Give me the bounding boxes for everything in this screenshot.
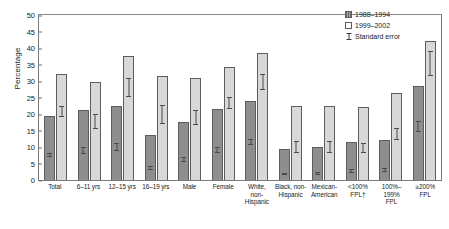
x-label-1: 6–11 yrs	[72, 183, 106, 206]
x-label-4: Male	[173, 183, 207, 206]
bar-1[interactable]	[56, 74, 67, 180]
legend-item: Standard error	[345, 31, 400, 42]
bar-1[interactable]	[257, 53, 268, 180]
error-bar	[284, 173, 285, 175]
bar-1[interactable]	[90, 82, 101, 180]
bar-group	[274, 15, 308, 180]
bar-rect	[145, 135, 156, 180]
y-tick-25: 25	[27, 93, 39, 102]
bar-rect	[78, 110, 89, 180]
bar-rect	[379, 140, 390, 180]
bar-0[interactable]	[413, 86, 424, 180]
error-bar	[296, 141, 297, 152]
bar-group	[106, 15, 140, 180]
bar-0[interactable]	[178, 122, 189, 180]
error-bar	[95, 114, 96, 129]
legend-label: 1988–1994	[355, 9, 390, 20]
standard-error-icon	[345, 33, 352, 40]
bar-0[interactable]	[379, 140, 390, 180]
bar-1[interactable]	[291, 106, 302, 180]
legend-label: Standard error	[355, 31, 400, 42]
bar-chart: Percentage 05101520253035404550 Total6–1…	[0, 0, 449, 229]
bar-0[interactable]	[111, 106, 122, 180]
error-bar	[217, 147, 218, 153]
bar-0[interactable]	[44, 116, 55, 180]
bar-rect	[413, 86, 424, 180]
y-tick-5: 5	[31, 159, 39, 168]
y-tick-30: 30	[27, 77, 39, 86]
x-label-5: Female	[206, 183, 240, 206]
bar-rect	[90, 82, 101, 180]
bar-rect	[190, 78, 201, 180]
bar-0[interactable]	[145, 135, 156, 180]
x-axis-labels: Total6–11 yrs12–15 yrs16–19 yrsMaleFemal…	[38, 183, 442, 206]
x-label-9: <100%FPL†	[341, 183, 375, 206]
y-tick-45: 45	[27, 27, 39, 36]
bar-1[interactable]	[358, 107, 369, 180]
bar-1[interactable]	[425, 41, 436, 180]
bar-group	[140, 15, 174, 180]
bar-1[interactable]	[224, 67, 235, 180]
error-bar	[384, 168, 385, 172]
legend-item: 1988–1994	[345, 9, 400, 20]
error-bar	[363, 143, 364, 153]
error-bar	[61, 106, 62, 117]
legend-item: 1999–2002	[345, 20, 400, 31]
error-bar	[430, 51, 431, 75]
bar-0[interactable]	[279, 149, 290, 180]
x-label-2: 12–15 yrs	[105, 183, 139, 206]
bar-0[interactable]	[245, 101, 256, 180]
bar-0[interactable]	[78, 110, 89, 180]
bar-0[interactable]	[312, 147, 323, 180]
error-bar	[329, 141, 330, 153]
x-label-11: ≥200%FPL	[408, 183, 442, 206]
bar-0[interactable]	[346, 142, 357, 180]
bar-1[interactable]	[123, 56, 134, 180]
x-label-8: Mexican-American	[307, 183, 341, 206]
legend-swatch-icon	[345, 22, 352, 29]
error-bar	[351, 169, 352, 172]
bar-group	[240, 15, 274, 180]
error-bar	[195, 110, 196, 125]
x-label-10: 100%–199%FPL	[375, 183, 409, 206]
error-bar	[128, 78, 129, 97]
error-bar	[183, 157, 184, 161]
y-tick-40: 40	[27, 44, 39, 53]
error-bar	[162, 105, 163, 124]
y-tick-10: 10	[27, 143, 39, 152]
legend-swatch-icon	[345, 11, 352, 18]
bar-group	[307, 15, 341, 180]
bar-group	[207, 15, 241, 180]
bar-rect	[157, 76, 168, 180]
bar-1[interactable]	[391, 93, 402, 180]
bar-rect	[279, 149, 290, 180]
bar-rect	[312, 147, 323, 180]
x-label-6: White, non-Hispanic	[240, 183, 274, 206]
bar-1[interactable]	[157, 76, 168, 180]
error-bar	[317, 172, 318, 174]
y-tick-35: 35	[27, 60, 39, 69]
error-bar	[150, 166, 151, 169]
bar-group	[73, 15, 107, 180]
bar-rect	[56, 74, 67, 180]
bar-0[interactable]	[212, 109, 223, 180]
bar-rect	[224, 67, 235, 180]
bar-1[interactable]	[324, 106, 335, 180]
x-label-0: Total	[38, 183, 72, 206]
bar-group	[173, 15, 207, 180]
error-bar	[49, 153, 50, 157]
bar-1[interactable]	[190, 78, 201, 180]
bar-rect	[123, 56, 134, 180]
y-tick-20: 20	[27, 110, 39, 119]
x-label-3: 16–19 yrs	[139, 183, 173, 206]
error-bar	[250, 139, 251, 145]
bar-group	[39, 15, 73, 180]
bar-rect	[257, 53, 268, 180]
error-bar	[396, 128, 397, 141]
y-tick-15: 15	[27, 126, 39, 135]
error-bar	[116, 143, 117, 151]
legend-label: 1999–2002	[355, 20, 390, 31]
error-bar	[229, 97, 230, 109]
error-bar	[262, 74, 263, 90]
error-bar	[83, 147, 84, 153]
